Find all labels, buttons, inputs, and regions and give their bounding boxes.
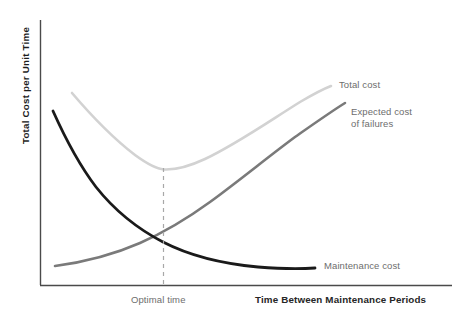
series-expected-cost-of-failures-curve xyxy=(55,103,345,266)
y-axis-title: Total Cost per Unit Time xyxy=(20,16,31,156)
series-label-total-cost: Total cost xyxy=(339,79,380,91)
chart-plot-area xyxy=(0,0,457,326)
series-total-cost-curve xyxy=(72,86,331,170)
series-label-expected-cost-line1: Expected cost xyxy=(351,106,412,117)
series-label-expected-cost-line2: of failures xyxy=(351,118,393,129)
series-label-expected-cost-of-failures: Expected costof failures xyxy=(351,106,412,129)
annotation-label-optimal-time: Optimal time xyxy=(131,294,186,306)
series-maintenance-cost-curve xyxy=(53,111,315,269)
cost-vs-maintenance-period-chart: Total Cost per Unit Time Time Between Ma… xyxy=(0,0,457,326)
y-axis-title-wrapper: Total Cost per Unit Time xyxy=(0,0,40,180)
series-label-maintenance-cost: Maintenance cost xyxy=(324,260,400,272)
x-axis-title: Time Between Maintenance Periods xyxy=(255,294,426,306)
